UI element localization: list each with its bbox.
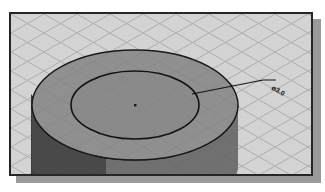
illustration-stage: ø3.0 — [0, 0, 325, 192]
center-point-marker — [134, 104, 136, 106]
cad-scene — [11, 14, 311, 174]
drawing-frame: ø3.0 — [9, 12, 313, 176]
cad-viewport[interactable]: ø3.0 — [11, 14, 311, 174]
